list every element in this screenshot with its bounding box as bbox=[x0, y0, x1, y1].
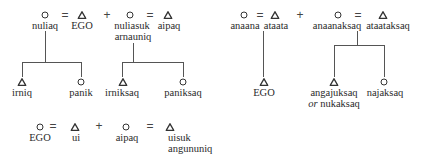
descent-line bbox=[183, 62, 184, 77]
kin-label-najaksaq: najaksaq bbox=[367, 87, 404, 98]
sibling-bar bbox=[22, 62, 82, 63]
kin-label-ataataksaq: ataataksaq bbox=[366, 20, 410, 31]
descent-line bbox=[81, 62, 82, 77]
kin-label-angajuksaq: angajuksaq bbox=[310, 87, 357, 98]
kin-label-ego: EGO bbox=[71, 20, 93, 31]
female-circle-icon bbox=[42, 12, 49, 19]
female-circle-icon bbox=[78, 79, 85, 86]
kin-label-uisuk: uisuk bbox=[168, 132, 191, 143]
kin-label-ataata: ataata bbox=[264, 20, 288, 31]
female-circle-icon bbox=[241, 12, 248, 19]
descent-line bbox=[22, 62, 23, 77]
marriage-sign: = bbox=[61, 8, 68, 22]
sibling-bar bbox=[122, 62, 184, 63]
female-circle-icon bbox=[335, 12, 342, 19]
descent-line bbox=[263, 31, 264, 77]
kin-label-panik: panik bbox=[69, 87, 92, 98]
kin-label-nuliaq: nuliaq bbox=[32, 20, 58, 31]
marriage-sign: = bbox=[146, 119, 153, 133]
kin-label-aipaq: aipaq bbox=[116, 132, 139, 143]
kin-label-paniksaq: paniksaq bbox=[164, 87, 201, 98]
kin-label-irniksaq: irniksaq bbox=[105, 87, 139, 98]
kin-label-ui: ui bbox=[72, 132, 80, 143]
descent-line bbox=[384, 45, 385, 77]
sibling-bar bbox=[334, 45, 385, 46]
kin-label-angununiq: angununiq bbox=[168, 143, 212, 154]
female-circle-icon bbox=[37, 124, 44, 131]
kin-label-ego: EGO bbox=[253, 87, 275, 98]
marriage-sign: = bbox=[49, 119, 56, 133]
kin-label-arnauniq: arnauniq bbox=[115, 31, 152, 42]
female-circle-icon bbox=[180, 79, 187, 86]
or-connector: or bbox=[308, 98, 317, 109]
kin-label-anaanaksaq: anaanaksaq bbox=[313, 20, 361, 31]
kin-label-aipaq: aipaq bbox=[158, 20, 181, 31]
kin-label-ego: EGO bbox=[29, 132, 51, 143]
sibling-sign: + bbox=[95, 119, 102, 133]
female-circle-icon bbox=[381, 79, 388, 86]
descent-line bbox=[122, 62, 123, 77]
sibling-sign: + bbox=[103, 8, 110, 22]
sibling-sign: + bbox=[296, 8, 303, 22]
descent-line bbox=[334, 45, 335, 77]
kin-label-nukaksaq-text: nukaksaq bbox=[320, 98, 360, 109]
descent-line bbox=[45, 31, 46, 62]
descent-line bbox=[357, 31, 358, 46]
kin-label-nukaksaq: or nukaksaq bbox=[308, 98, 360, 109]
kin-label-irniq: irniq bbox=[12, 87, 32, 98]
kin-label-nuliasuk: nuliasuk bbox=[114, 20, 150, 31]
female-circle-icon bbox=[127, 12, 134, 19]
descent-line bbox=[133, 43, 134, 62]
kin-label-anaana: anaana bbox=[230, 20, 259, 31]
female-circle-icon bbox=[123, 124, 130, 131]
